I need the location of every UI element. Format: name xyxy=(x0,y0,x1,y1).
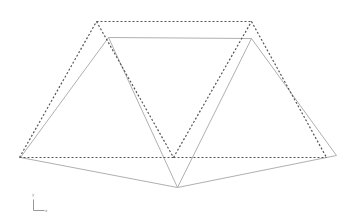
truss-diagram xyxy=(0,0,351,223)
axis-y-label: y xyxy=(32,192,34,197)
deformed-member xyxy=(21,158,178,188)
deformed-member xyxy=(178,156,337,188)
axis-triad-icon xyxy=(34,200,45,211)
undeformed-member xyxy=(174,22,252,158)
deformed-shape xyxy=(21,38,337,188)
deformed-member xyxy=(252,39,337,156)
undeformed-member xyxy=(97,22,174,158)
deformed-member xyxy=(178,39,252,188)
undeformed-member xyxy=(20,22,97,158)
undeformed-member xyxy=(252,22,327,158)
deformed-member xyxy=(21,38,109,158)
axis-x-label: x xyxy=(45,208,47,213)
deformed-member xyxy=(109,38,252,39)
undeformed-shape xyxy=(20,22,327,158)
